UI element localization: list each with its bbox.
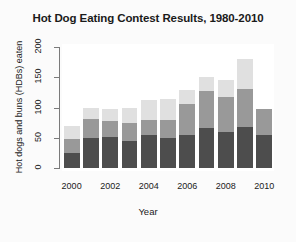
bar-stack[interactable] (122, 47, 138, 168)
x-tick-label: 2004 (129, 181, 169, 191)
x-tick-label: 2010 (244, 181, 284, 191)
bar-segment[interactable] (141, 100, 157, 120)
bar-segment[interactable] (83, 108, 99, 119)
bar-stack[interactable] (199, 47, 215, 168)
bar-segment[interactable] (179, 90, 195, 105)
chart-figure: Hot Dog Eating Contest Results, 1980-201… (0, 0, 296, 242)
y-tick-mark (54, 168, 59, 169)
bar-segment[interactable] (218, 132, 234, 168)
bar-stack[interactable] (141, 47, 157, 168)
y-tick-mark (54, 77, 59, 78)
bar-segment[interactable] (237, 89, 253, 127)
bar-segment[interactable] (83, 138, 99, 168)
bar-stack[interactable] (237, 47, 253, 168)
y-tick-mark (54, 138, 59, 139)
bar-segment[interactable] (179, 104, 195, 135)
y-tick-label: 50 (33, 123, 43, 151)
y-tick-mark (54, 108, 59, 109)
y-tick-label: 0 (33, 153, 43, 181)
bar-segment[interactable] (160, 99, 176, 120)
x-tick-label: 2000 (52, 181, 92, 191)
y-axis-line (59, 47, 60, 169)
bar-segment[interactable] (122, 141, 138, 168)
bar-segment[interactable] (141, 120, 157, 135)
bar-segment[interactable] (122, 108, 138, 123)
chart-title: Hot Dog Eating Contest Results, 1980-201… (0, 12, 296, 24)
bar-segment[interactable] (218, 97, 234, 132)
bar-stack[interactable] (256, 47, 272, 168)
bar-segment[interactable] (64, 153, 80, 168)
bar-segment[interactable] (64, 126, 80, 139)
bar-segment[interactable] (122, 123, 138, 141)
y-tick-label: 150 (33, 62, 43, 90)
bar-stack[interactable] (64, 47, 80, 168)
bar-segment[interactable] (141, 135, 157, 168)
bar-stack[interactable] (218, 47, 234, 168)
y-axis-title: Hot dogs and buns (HDBs) eaten (14, 32, 24, 182)
bar-segment[interactable] (83, 119, 99, 138)
bar-segment[interactable] (256, 109, 272, 136)
bar-stack[interactable] (179, 47, 195, 168)
bar-segment[interactable] (179, 135, 195, 168)
x-tick-label: 2008 (206, 181, 246, 191)
x-tick-label: 2006 (167, 181, 207, 191)
y-tick-label: 200 (33, 32, 43, 60)
bar-segment[interactable] (256, 135, 272, 168)
bar-segment[interactable] (237, 127, 253, 168)
y-tick-label: 100 (33, 93, 43, 121)
y-tick-mark (54, 47, 59, 48)
x-tick-label: 2002 (90, 181, 130, 191)
bar-segment[interactable] (102, 109, 118, 122)
bar-segment[interactable] (160, 120, 176, 139)
bar-stack[interactable] (160, 47, 176, 168)
bar-segment[interactable] (64, 139, 80, 153)
x-axis-title: Year (0, 206, 296, 217)
bar-stack[interactable] (102, 47, 118, 168)
bar-segment[interactable] (199, 128, 215, 168)
bar-segment[interactable] (102, 121, 118, 137)
bar-segment[interactable] (160, 138, 176, 168)
bar-segment[interactable] (199, 77, 215, 90)
bar-segment[interactable] (102, 137, 118, 168)
bar-segment[interactable] (199, 91, 215, 129)
bar-segment[interactable] (237, 59, 253, 89)
bar-stack[interactable] (83, 47, 99, 168)
bar-segment[interactable] (218, 80, 234, 97)
